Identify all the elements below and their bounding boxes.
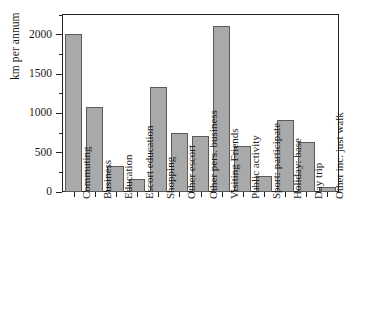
x-tick-label: Visiting Friends: [227, 128, 241, 199]
x-tick-mark: [264, 192, 265, 197]
x-tick-mark: [158, 192, 159, 197]
x-tick-mark: [306, 192, 307, 197]
x-tick-label: Other escort: [184, 145, 198, 199]
x-tick-label: Commuting: [79, 146, 93, 199]
x-tick-label: Public activity: [248, 135, 262, 199]
x-tick-mark: [222, 192, 223, 197]
y-tick-label: 1000: [2, 107, 52, 119]
x-tick-mark: [285, 192, 286, 197]
x-tick-mark: [179, 192, 180, 197]
x-tick-label: Escort education: [142, 125, 156, 199]
x-tick-label: Shopping: [163, 157, 177, 199]
y-tick-label: 1500: [2, 68, 52, 80]
x-tick-mark: [243, 192, 244, 197]
x-tick-mark: [74, 192, 75, 197]
x-tick-label: Education: [121, 154, 135, 199]
x-tick-label: Other inc. just walk: [332, 112, 346, 199]
y-tick-label: 500: [2, 147, 52, 159]
x-tick-mark: [137, 192, 138, 197]
x-tick-label: Day trip: [311, 163, 325, 199]
x-tick-mark: [201, 192, 202, 197]
x-tick-label: Business: [100, 160, 114, 199]
x-tick-mark: [116, 192, 117, 197]
y-tick-label: 0: [2, 186, 52, 198]
x-tick-mark: [95, 192, 96, 197]
x-tick-mark: [327, 192, 328, 197]
x-tick-label: Holiday: base: [290, 138, 304, 199]
x-tick-label: Other pers. business: [206, 110, 220, 199]
x-tick-label: Sport: participate: [269, 123, 283, 199]
bar-chart: km per annum 0500100015002000 CommutingB…: [0, 0, 367, 318]
y-tick-label: 2000: [2, 29, 52, 41]
